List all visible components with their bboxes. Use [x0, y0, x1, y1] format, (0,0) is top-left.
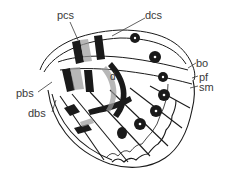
wing-diagram: pcs dcs bo pf sm pbs dbs d: [0, 0, 228, 176]
label-dbs: dbs: [28, 108, 46, 119]
wing-drawing: [0, 0, 228, 176]
bands: [62, 35, 132, 134]
label-d: d: [110, 72, 116, 82]
label-pbs: pbs: [16, 88, 34, 99]
label-bo: bo: [196, 58, 208, 69]
label-pcs: pcs: [57, 10, 74, 21]
label-sm: sm: [199, 82, 214, 93]
label-dcs: dcs: [145, 10, 162, 21]
